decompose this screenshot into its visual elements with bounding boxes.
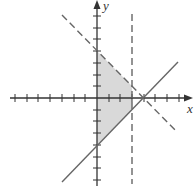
y-axis-arrow-icon bbox=[94, 0, 101, 9]
x-axis-label: x bbox=[186, 101, 193, 116]
y-axis-label: y bbox=[101, 0, 109, 13]
inequality-graph: x y bbox=[0, 0, 194, 189]
